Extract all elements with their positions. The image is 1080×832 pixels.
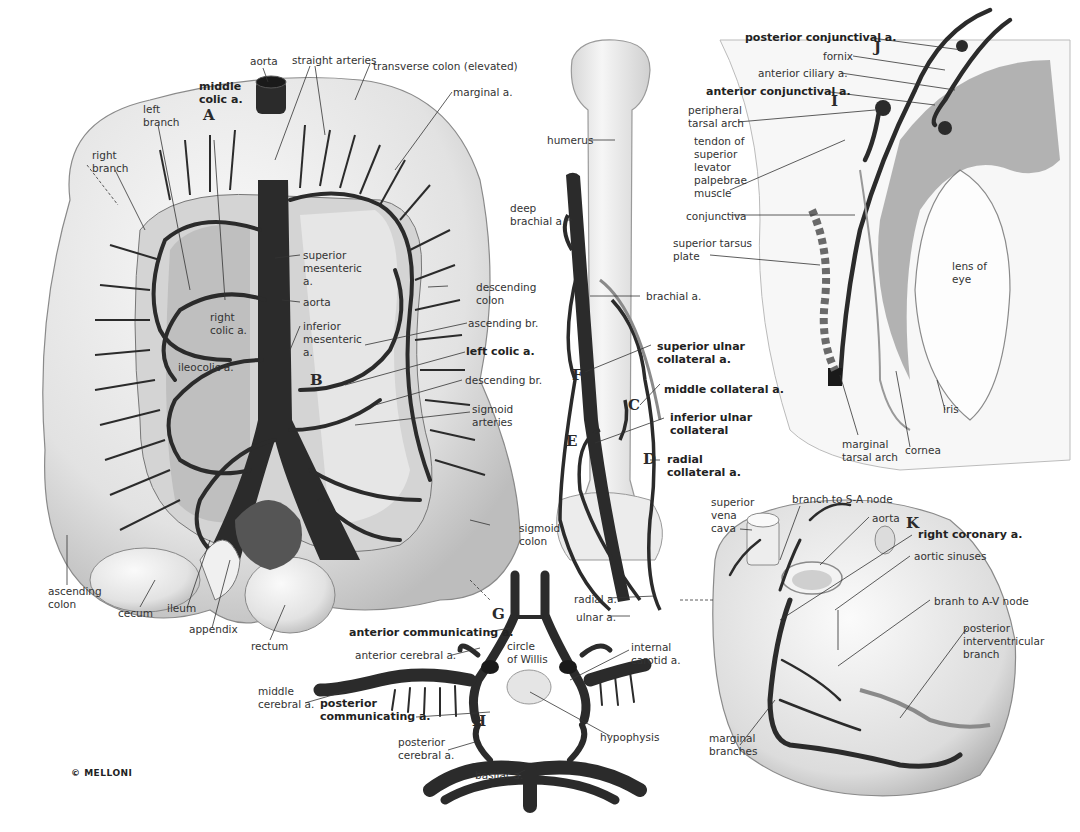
marker-letter-c: C (628, 396, 640, 414)
label-superior-ulnar-collateral: superior ulnar collateral a. (657, 340, 745, 366)
marker-letter-b: B (310, 371, 323, 389)
label-internal-carotid: internal carotid a. (631, 641, 681, 667)
label-humerus: humerus (547, 134, 593, 147)
label-straight-arteries: straight arteries (292, 54, 377, 67)
anatomy-plate: aorta straight arteries transverse colon… (0, 0, 1080, 832)
label-superior-tarsus-plate: superior tarsus plate (673, 237, 752, 263)
label-aortic-sinuses: aortic sinuses (914, 550, 986, 563)
arm-illustration (557, 40, 663, 610)
marker-letter-h: H (472, 712, 486, 730)
label-superior-mesenteric: superior mesenteric a. (303, 249, 362, 288)
label-tendon-levator: tendon of superior levator palpebrae mus… (694, 135, 747, 200)
label-inferior-ulnar-collateral: inferior ulnar collateral (670, 411, 752, 437)
marker-letter-a: A (203, 106, 215, 124)
label-ulnar-artery: ulnar a. (576, 611, 616, 624)
label-radial-collateral: radial collateral a. (667, 453, 741, 479)
label-marginal-artery: marginal a. (453, 86, 513, 99)
label-rectum: rectum (251, 640, 288, 653)
label-aorta-top: aorta (250, 55, 278, 68)
carotid-left-end (481, 660, 499, 674)
copyright-notice: © MELLONI (71, 768, 132, 778)
marker-letter-e: E (566, 432, 577, 450)
label-ascending-br: ascending br. (468, 317, 538, 330)
label-anterior-ciliary: anterior ciliary a. (758, 67, 848, 80)
label-branch-sa-node: branch to S-A node (792, 493, 893, 506)
label-cecum: cecum (118, 607, 153, 620)
marker-letter-g: G (492, 605, 505, 623)
carotid-right-end (559, 660, 577, 674)
label-right-branch: right branch (92, 149, 129, 175)
marker-letter-d: D (643, 450, 656, 468)
label-right-coronary: right coronary a. (918, 528, 1022, 541)
label-basilar: basilar a. (475, 769, 523, 782)
label-inferior-mesenteric: inferior mesenteric a. (303, 320, 362, 359)
label-heart-aorta: aorta (872, 512, 900, 525)
label-anterior-communicating: anterior communicating a. (349, 626, 514, 639)
label-ileocolic: ileocolic a. (178, 361, 234, 374)
label-superior-vena-cava: superior vena cava (711, 496, 754, 535)
label-hypophysis: hypophysis (600, 731, 659, 744)
label-radial-artery: radial a. (574, 593, 617, 606)
label-aorta-mid: aorta (303, 296, 331, 309)
label-conjunctiva: conjunctiva (686, 210, 747, 223)
label-middle-collateral: middle collateral a. (664, 383, 784, 396)
label-posterior-communicating: posterior communicating a. (320, 697, 431, 723)
label-sigmoid-colon: sigmoid colon (519, 522, 560, 548)
label-ileum: ileum (167, 602, 196, 615)
label-fornix: fornix (823, 50, 853, 63)
label-sigmoid-arteries: sigmoid arteries (472, 403, 513, 429)
label-descending-br: descending br. (465, 374, 542, 387)
label-right-colic: right colic a. (210, 311, 247, 337)
label-brachial: brachial a. (646, 290, 701, 303)
label-posterior-cerebral: posterior cerebral a. (398, 736, 454, 762)
label-branch-av-node: branh to A-V node (934, 595, 1029, 608)
label-middle-cerebral: middle cerebral a. (258, 685, 314, 711)
label-lens: lens of eye (952, 260, 987, 286)
label-middle-colic: middle colic a. (199, 80, 243, 106)
marker-letter-j: J (874, 38, 881, 56)
label-peripheral-tarsal-arch: peripheral tarsal arch (688, 104, 744, 130)
label-anterior-conjunctival: anterior conjunctival a. (706, 85, 851, 98)
label-ascending-colon: ascending colon (48, 585, 102, 611)
marker-letter-i: I (831, 92, 838, 110)
label-descending-colon: descending colon (476, 281, 536, 307)
label-iris: iris (943, 403, 959, 416)
label-anterior-cerebral: anterior cerebral a. (355, 649, 456, 662)
label-posterior-interventricular: posterior interventricular branch (963, 622, 1044, 661)
label-appendix: appendix (189, 623, 238, 636)
marker-letter-f: F (572, 366, 583, 384)
label-marginal-tarsal-arch: marginal tarsal arch (842, 438, 898, 464)
label-cornea: cornea (905, 444, 941, 457)
label-left-colic: left colic a. (466, 345, 535, 358)
label-marginal-branches: marginal branches (709, 732, 757, 758)
label-transverse-colon: transverse colon (elevated) (373, 60, 518, 73)
label-circle-of-willis: circle of Willis (507, 640, 548, 666)
label-deep-brachial: deep brachial a. (510, 202, 565, 228)
hypophysis-shape (507, 670, 551, 704)
label-left-branch: left branch (143, 103, 180, 129)
